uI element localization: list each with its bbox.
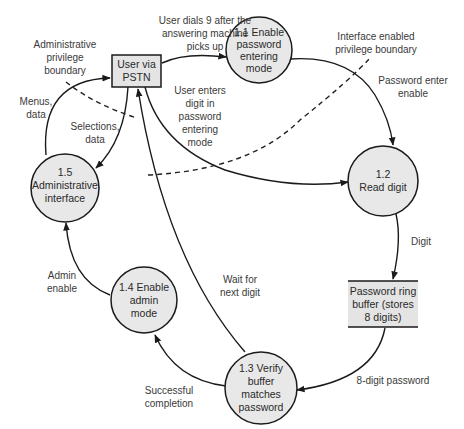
label-user-enters-digit: User enters digit in password entering m… xyxy=(174,85,226,148)
process-1-5-line-3: interface xyxy=(45,192,85,204)
boundary-label-line: boundary xyxy=(44,65,86,76)
flow-1-2-to-buffer xyxy=(393,214,398,279)
password-ring-buffer-store[interactable]: Password ring buffer (stores 8 digits) xyxy=(348,281,418,327)
process-1-5-line-1: 1.5 xyxy=(58,166,73,178)
label-admin-enable: Admin enable xyxy=(47,270,77,294)
flow-user-to-1-1 xyxy=(162,55,226,63)
flow-label-line: Successful xyxy=(145,385,193,396)
process-1-3-line-2: buffer xyxy=(248,375,275,387)
process-1-4-line-2: admin xyxy=(130,294,159,306)
process-1-4-enable-admin-mode[interactable]: 1.4 Enable admin mode xyxy=(111,267,177,333)
flow-label-line: digit in xyxy=(186,98,215,109)
flow-user-to-1-2 xyxy=(145,87,348,184)
user-via-pstn-entity[interactable]: User via PSTN xyxy=(112,55,161,87)
process-1-2-read-digit[interactable]: 1.2 Read digit xyxy=(348,146,418,216)
flow-label-line: answering machine xyxy=(162,28,249,39)
entity-label-line-2: PSTN xyxy=(122,71,150,83)
flow-label-line: data xyxy=(26,109,46,120)
label-interface-enabled-privilege-boundary: Interface enabled privilege boundary xyxy=(335,31,417,55)
process-1-2-line-1: 1.2 xyxy=(376,168,391,180)
process-1-3-line-1: 1.3 Verify xyxy=(239,362,284,374)
label-selections-data: Selections, data xyxy=(71,121,120,145)
label-successful-completion: Successful completion xyxy=(145,385,193,409)
flow-label-line: data xyxy=(85,134,105,145)
store-line-2: buffer (stores xyxy=(352,298,414,310)
flow-label-line: 8-digit password xyxy=(357,375,430,386)
flow-label-line: picks up xyxy=(187,41,224,52)
flow-label-line: Menus, xyxy=(20,96,53,107)
flow-label-line: User dials 9 after the xyxy=(159,15,252,26)
flow-label-line: Password enter xyxy=(378,75,448,86)
label-administrative-privilege-boundary: Administrative privilege boundary xyxy=(34,39,97,76)
store-line-3: 8 digits) xyxy=(365,311,402,323)
flow-label-line: User enters xyxy=(174,85,226,96)
process-1-3-verify-buffer[interactable]: 1.3 Verify buffer matches password xyxy=(225,352,297,424)
flow-label-line: password xyxy=(179,111,222,122)
process-1-3-line-4: password xyxy=(239,401,284,413)
flow-label-line: entering xyxy=(182,124,218,135)
flow-1-1-to-1-2 xyxy=(290,59,393,145)
entity-label-line-1: User via xyxy=(117,58,156,70)
flow-1-3-to-1-4 xyxy=(155,335,226,386)
flow-label-line: enable xyxy=(47,283,77,294)
process-1-5-administrative-interface[interactable]: 1.5 Administrative interface xyxy=(31,154,99,222)
boundary-label-line: Interface enabled xyxy=(337,31,414,42)
process-1-4-line-1: 1.4 Enable xyxy=(119,281,169,293)
flow-label-line: next digit xyxy=(220,287,260,298)
label-8-digit-password: 8-digit password xyxy=(357,375,430,386)
flow-label-line: completion xyxy=(145,398,193,409)
flow-label-line: Admin xyxy=(48,270,76,281)
process-1-1-line-3: entering xyxy=(240,50,278,62)
label-menus-data: Menus, data xyxy=(20,96,53,120)
process-1-3-line-3: matches xyxy=(241,388,281,400)
boundary-label-line: privilege boundary xyxy=(335,44,417,55)
boundary-label-line: privilege xyxy=(46,52,84,63)
label-wait-for-next-digit: Wait for next digit xyxy=(220,274,260,298)
boundary-label-line: Administrative xyxy=(34,39,97,50)
process-1-2-line-2: Read digit xyxy=(359,181,406,193)
data-flow-diagram: User via PSTN 1.1 Enable password enteri… xyxy=(0,0,464,429)
process-1-1-line-2: password xyxy=(237,38,282,50)
flow-label-line: enable xyxy=(398,88,428,99)
process-1-1-line-4: mode xyxy=(246,62,272,74)
process-1-1-enable-password-mode[interactable]: 1.1 Enable password entering mode xyxy=(226,17,292,83)
flow-label-line: Digit xyxy=(411,236,431,247)
label-password-enter-enable: Password enter enable xyxy=(378,75,448,99)
process-1-5-line-2: Administrative xyxy=(32,179,98,191)
flow-label-line: Wait for xyxy=(223,274,258,285)
flow-label-line: mode xyxy=(187,137,212,148)
flow-label-line: Selections, xyxy=(71,121,120,132)
label-digit: Digit xyxy=(411,236,431,247)
process-1-4-line-3: mode xyxy=(131,307,157,319)
store-line-1: Password ring xyxy=(350,285,417,297)
